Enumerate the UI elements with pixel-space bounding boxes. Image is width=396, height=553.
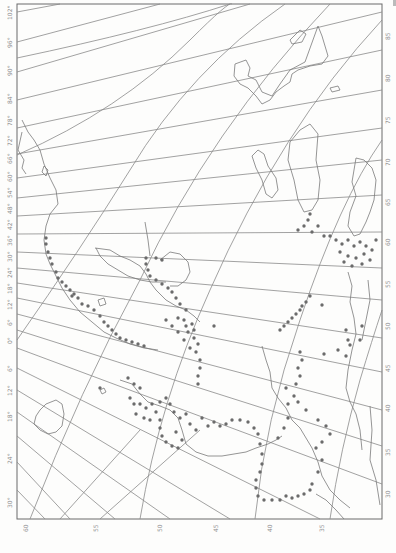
- svg-text:80: 80: [384, 74, 391, 82]
- svg-text:35: 35: [318, 524, 325, 532]
- svg-text:40: 40: [266, 524, 273, 532]
- left-axis-labels: 102° 96° 90° 84° 78° 72° 66° 60° 54° 48°…: [6, 6, 13, 508]
- meridian-lines: [17, 4, 382, 519]
- svg-text:96°: 96°: [6, 37, 13, 48]
- island-north: [234, 26, 328, 104]
- svg-text:18°: 18°: [6, 283, 13, 294]
- svg-text:6°: 6°: [6, 319, 13, 326]
- svg-text:24°: 24°: [6, 453, 13, 464]
- svg-text:66°: 66°: [6, 153, 13, 164]
- svg-text:48°: 48°: [6, 203, 13, 214]
- svg-text:50: 50: [156, 524, 163, 532]
- svg-text:50: 50: [384, 322, 391, 330]
- svg-text:54°: 54°: [6, 187, 13, 198]
- svg-text:35: 35: [384, 448, 391, 456]
- svg-text:45: 45: [384, 364, 391, 372]
- map-canvas: 102° 96° 90° 84° 78° 72° 66° 60° 54° 48°…: [0, 0, 396, 553]
- svg-text:78°: 78°: [6, 115, 13, 126]
- svg-text:30°: 30°: [6, 497, 13, 508]
- svg-text:102°: 102°: [6, 6, 13, 20]
- svg-text:60°: 60°: [6, 171, 13, 182]
- svg-text:18°: 18°: [6, 411, 13, 422]
- svg-text:65: 65: [384, 198, 391, 206]
- svg-text:0°: 0°: [6, 337, 13, 344]
- latitude-arcs: [17, 4, 382, 519]
- map: 102° 96° 90° 84° 78° 72° 66° 60° 54° 48°…: [0, 0, 396, 553]
- svg-text:42°: 42°: [6, 219, 13, 230]
- bottom-axis-labels: 60 55 50 45 40 35: [22, 524, 325, 532]
- svg-text:6°: 6°: [6, 365, 13, 372]
- svg-text:84°: 84°: [6, 93, 13, 104]
- svg-text:70: 70: [384, 158, 391, 166]
- svg-text:60: 60: [384, 238, 391, 246]
- svg-text:90°: 90°: [6, 65, 13, 76]
- svg-text:85: 85: [384, 32, 391, 40]
- svg-text:55: 55: [384, 280, 391, 288]
- island-southwest: [34, 400, 64, 434]
- svg-text:60: 60: [22, 524, 29, 532]
- right-axis-labels: 85 80 75 70 65 60 55 50 45 40 35 30: [384, 32, 391, 498]
- svg-text:72°: 72°: [6, 135, 13, 146]
- svg-text:55: 55: [92, 524, 99, 532]
- svg-text:45: 45: [212, 524, 219, 532]
- svg-text:30°: 30°: [6, 251, 13, 262]
- svg-text:24°: 24°: [6, 267, 13, 278]
- map-frame: [17, 4, 382, 519]
- svg-text:12°: 12°: [6, 299, 13, 310]
- west-coast: [22, 120, 158, 350]
- svg-text:36°: 36°: [6, 235, 13, 246]
- svg-text:30: 30: [384, 490, 391, 498]
- svg-text:40: 40: [384, 404, 391, 412]
- svg-text:75: 75: [384, 116, 391, 124]
- svg-text:12°: 12°: [6, 385, 13, 396]
